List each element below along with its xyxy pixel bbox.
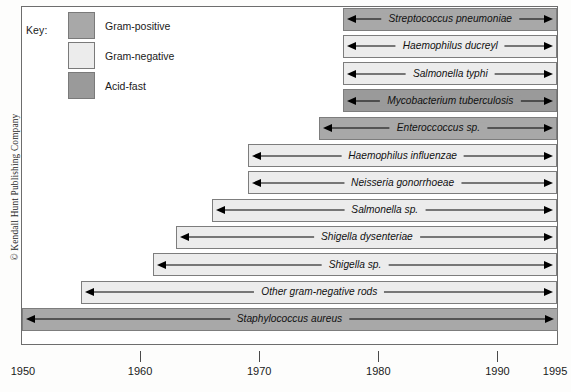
axis-tick-label: 1950 <box>11 365 35 377</box>
axis-tick <box>140 351 141 362</box>
resistance-timeline-figure: © Kendall Hunt Publishing Company Key: G… <box>0 0 571 392</box>
bar-series: Streptococcus pneumoniaeHaemophilus ducr… <box>0 0 571 392</box>
axis-tick <box>259 351 260 362</box>
bar-mycobacterium-tuberculosis: Mycobacterium tuberculosis <box>343 89 557 112</box>
arrow-right-icon <box>545 315 554 323</box>
bar-label: Neisseria gonorrhoeae <box>344 178 461 188</box>
arrow-right-icon <box>544 152 553 160</box>
arrow-left-icon <box>347 42 356 50</box>
arrow-right-icon <box>544 42 553 50</box>
bar-salmonella-sp: Salmonella sp. <box>212 199 557 222</box>
arrow-left-icon <box>85 288 94 296</box>
bar-label: Haemophilus influenzae <box>341 150 464 160</box>
arrow-left-icon <box>347 97 356 105</box>
bar-label: Shigella sp. <box>322 260 389 270</box>
arrow-left-icon <box>347 15 356 23</box>
arrow-right-icon <box>544 233 553 241</box>
arrow-right-icon <box>544 15 553 23</box>
bar-label: Staphylococcus aureus <box>230 314 349 324</box>
x-axis: 195019601970198019901995 <box>21 345 558 363</box>
axis-tick <box>378 351 379 362</box>
bar-label: Salmonella sp. <box>344 205 425 215</box>
arrow-right-icon <box>544 206 553 214</box>
arrow-left-icon <box>26 315 35 323</box>
bar-label: Other gram-negative rods <box>254 287 384 297</box>
bar-salmonella-typhi: Salmonella typhi <box>343 62 557 85</box>
bar-haemophilus-ducreyl: Haemophilus ducreyl <box>343 35 557 58</box>
bar-label: Salmonella typhi <box>406 68 495 78</box>
arrow-right-icon <box>544 124 553 132</box>
bar-streptococcus-pneumoniae: Streptococcus pneumoniae <box>343 8 557 31</box>
axis-tick-label: 1960 <box>128 365 152 377</box>
bar-label: Streptococcus pneumoniae <box>382 14 519 24</box>
bar-haemophilus-influenzae: Haemophilus influenzae <box>248 144 558 167</box>
axis-tick <box>497 351 498 362</box>
axis-tick-label: 1995 <box>543 365 567 377</box>
bar-label: Enteroccoccus sp. <box>390 123 487 133</box>
arrow-right-icon <box>544 70 553 78</box>
axis-tick-label: 1990 <box>485 365 509 377</box>
bar-shigella-dysenteriae: Shigella dysenteriae <box>176 226 557 249</box>
arrow-left-icon <box>180 233 189 241</box>
bar-enteroccoccus-sp: Enteroccoccus sp. <box>319 117 557 140</box>
arrow-right-icon <box>544 288 553 296</box>
axis-tick-label: 1970 <box>247 365 271 377</box>
bar-neisseria-gonorrhoeae: Neisseria gonorrhoeae <box>248 171 558 194</box>
axis-tick-label: 1980 <box>366 365 390 377</box>
bar-shigella-sp: Shigella sp. <box>153 253 558 276</box>
arrow-left-icon <box>347 70 356 78</box>
arrow-right-icon <box>544 179 553 187</box>
arrow-left-icon <box>252 179 261 187</box>
bar-label: Mycobacterium tuberculosis <box>380 96 520 106</box>
bar-staphylococcus-aureus: Staphylococcus aureus <box>22 308 558 331</box>
arrow-left-icon <box>323 124 332 132</box>
bar-other-gram-negative-rods: Other gram-negative rods <box>81 281 557 304</box>
arrow-right-icon <box>544 97 553 105</box>
bar-label: Shigella dysenteriae <box>314 232 420 242</box>
arrow-right-icon <box>544 261 553 269</box>
arrow-left-icon <box>252 152 261 160</box>
arrow-left-icon <box>216 206 225 214</box>
bar-label: Haemophilus ducreyl <box>396 41 505 51</box>
arrow-left-icon <box>157 261 166 269</box>
